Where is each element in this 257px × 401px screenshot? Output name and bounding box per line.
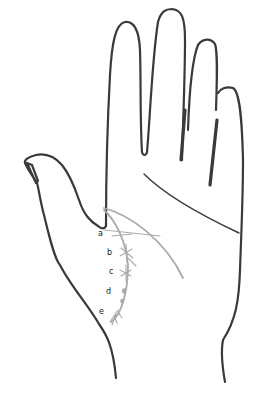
little-finger-outline [218,87,243,382]
palm-illustration: a b c d e [0,0,257,401]
crease-middle-ring [181,110,185,160]
marker-d-dot-1 [122,288,126,294]
crease-ring-little [210,120,217,185]
label-c: c [109,267,113,276]
marker-c-star [120,265,131,281]
label-d: d [106,287,111,296]
marker-d-dot-2 [120,299,123,304]
heart-line [144,174,239,233]
label-a: a [98,229,103,238]
head-line [104,208,183,278]
label-e: e [99,307,104,316]
life-line [104,210,128,322]
hand-outline [25,9,243,382]
label-b: b [107,248,112,257]
thumb-outline [25,154,116,378]
index-finger-outline [106,9,185,226]
ring-finger-outline [188,40,217,130]
life-line-markers [104,230,160,325]
marker-a-cross [104,230,160,236]
